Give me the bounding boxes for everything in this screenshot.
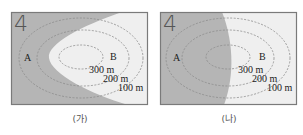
contour-label-100: 100 m [118,83,143,93]
caption-na: (나) [209,112,249,125]
corner-number: 4 [14,13,28,35]
point-a-label: A [173,53,180,63]
figure-na: 4 A B 300 m 200 m 100 m [160,12,297,105]
figure-ga: 4 A B 300 m 200 m 100 m [11,12,148,105]
point-b-label: B [110,52,117,62]
contour-label-100: 100 m [267,83,292,93]
point-b-label: B [259,52,266,62]
caption-ga: (가) [60,112,100,125]
corner-number: 4 [163,13,177,35]
point-a-label: A [24,53,31,63]
